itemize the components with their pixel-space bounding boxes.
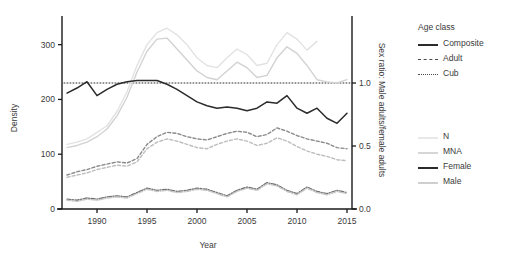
x-axis-title: Year	[199, 240, 216, 250]
secondary-y-axis-tick-label: 1.0	[359, 78, 371, 88]
y-axis-title: Density	[9, 104, 19, 132]
x-axis-tick-label: 1990	[88, 216, 107, 226]
legend-title: Age class	[418, 22, 455, 32]
legend-label-composite[interactable]: Composite	[443, 38, 484, 48]
legend-label-n[interactable]: N	[443, 131, 449, 141]
line-chart-plot	[0, 0, 519, 257]
legend-label-cub[interactable]: Cub	[443, 68, 459, 78]
series-line-mna-cub	[67, 184, 347, 202]
legend-swatch-adult	[418, 59, 438, 60]
legend-label-female[interactable]: Female	[443, 161, 471, 171]
legend-swatch-n	[418, 137, 438, 139]
legend-label-adult[interactable]: Adult	[443, 53, 462, 63]
series-line-female-composite	[67, 80, 347, 123]
secondary-y-axis-tick-label: 0.0	[359, 204, 371, 214]
secondary-y-axis-tick-label: 0.5	[359, 141, 371, 151]
legend-swatch-composite	[418, 44, 438, 46]
legend-swatch-male	[418, 182, 438, 184]
y-axis-tick-label: 200	[41, 94, 55, 104]
series-line-n-adult	[67, 128, 347, 175]
x-axis-tick-label: 2000	[188, 216, 207, 226]
x-axis-tick-label: 2010	[288, 216, 307, 226]
series-line-mna-composite	[67, 38, 347, 148]
legend-label-male[interactable]: Male	[443, 176, 461, 186]
y-axis-tick-label: 0	[50, 204, 55, 214]
chart-figure: Density Sex ratio: Male adults/female ad…	[0, 0, 519, 257]
x-axis-tick-label: 2005	[238, 216, 257, 226]
x-axis-tick-label: 2015	[338, 216, 357, 226]
secondary-y-axis-title: Sex ratio: Male adults/female adults	[377, 43, 387, 178]
x-axis-tick-label: 1995	[138, 216, 157, 226]
y-axis-tick-label: 100	[41, 149, 55, 159]
legend-label-mna[interactable]: MNA	[443, 146, 462, 156]
series-line-n-composite	[67, 28, 317, 144]
legend-swatch-female	[418, 167, 438, 169]
y-axis-tick-label: 300	[41, 40, 55, 50]
legend-swatch-cub	[418, 74, 438, 75]
legend-swatch-mna	[418, 152, 438, 154]
series-line-mna-adult	[67, 138, 347, 177]
